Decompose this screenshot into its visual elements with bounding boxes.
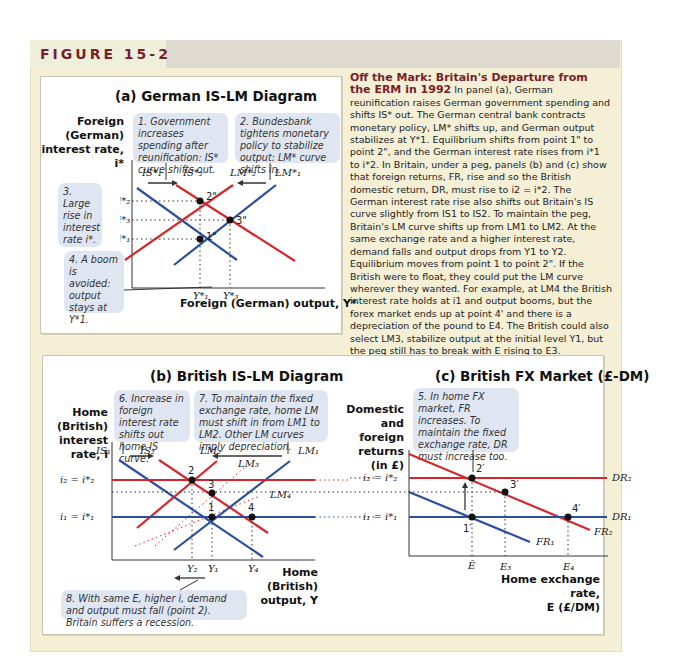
panel-c-title: (c) British FX Market (£-DM) — [435, 368, 649, 384]
svg-text:i*₁: i*₁ — [120, 233, 130, 244]
svg-text:LM₃: LM₃ — [237, 458, 259, 469]
panel-b-x-axis-label: Home (British) output, Y — [238, 566, 318, 608]
svg-text:LM₄: LM₄ — [269, 489, 291, 500]
svg-text:i₁ = i*₁: i₁ = i*₁ — [363, 511, 397, 522]
panel-b-chart: 2 3 1 4 IS₁ IS₂ LM₂ LM₃ LM₄ LM₁ i₂ = i*₂… — [60, 442, 350, 572]
svg-text:Y₁: Y₁ — [208, 563, 219, 572]
svg-text:1": 1" — [206, 231, 217, 242]
svg-text:FR₂: FR₂ — [593, 526, 612, 537]
svg-text:1: 1 — [208, 502, 214, 513]
svg-text:E₄: E₄ — [562, 561, 574, 572]
svg-text:DR₂: DR₂ — [611, 472, 632, 483]
svg-text:LM*₂: LM*₂ — [229, 167, 256, 178]
svg-text:Y*₃: Y*₃ — [223, 290, 239, 300]
svg-text:IS*₁: IS*₁ — [141, 167, 162, 178]
svg-text:2′: 2′ — [476, 463, 485, 474]
svg-text:4: 4 — [248, 502, 254, 513]
svg-text:E₃: E₃ — [499, 561, 511, 572]
note-5-fx-market: 5. In home FX market, FR increases. To m… — [413, 388, 519, 452]
svg-text:3": 3" — [236, 215, 247, 226]
svg-text:Y₄: Y₄ — [248, 563, 259, 572]
svg-text:i₂ = i*₂: i₂ = i*₂ — [60, 474, 94, 485]
svg-text:IS*₂: IS*₂ — [182, 167, 203, 178]
svg-text:i₂ = i*₂: i₂ = i*₂ — [363, 472, 397, 483]
svg-text:LM*₁: LM*₁ — [274, 167, 301, 178]
description-body: In panel (a), German reunification raise… — [350, 84, 612, 356]
svg-text:i₁ = i*₁: i₁ = i*₁ — [60, 511, 94, 522]
note-1-government-spending: 1. Government increases spending after r… — [133, 113, 228, 163]
figure-description: Off the Mark: Britain's Departure from t… — [350, 72, 612, 357]
note-8-pointer — [170, 574, 230, 594]
svg-text:LM₁: LM₁ — [297, 445, 319, 456]
panel-a-y-axis-label: Foreign (German) interest rate, i* — [36, 115, 124, 171]
note-4-pointer — [124, 284, 214, 296]
note-4-boom-avoided: 4. A boom is avoided: output stays at Y*… — [64, 251, 124, 313]
panel-a-chart: 2" 3" 1" IS*₁ IS*₂ LM*₂ LM*₁ i*₂ i*₃ i*₁… — [120, 160, 345, 300]
svg-text:IS₂: IS₂ — [139, 445, 155, 456]
svg-text:IS₁: IS₁ — [95, 445, 111, 456]
panel-a-title: (a) German IS-LM Diagram — [115, 88, 317, 104]
panel-c-chart: 2′ 3′ 1′ 4′ DR₂ DR₁ FR₁ FR₂ i₂ = i*₂ i₁ … — [350, 450, 650, 575]
svg-text:LM₂: LM₂ — [199, 445, 221, 456]
note-8-recession: 8. With same E, higher i, demand and out… — [61, 590, 247, 620]
svg-text:2: 2 — [188, 465, 194, 476]
note-7-maintain-fixed-rate: 7. To maintain the fixed exchange rate, … — [194, 390, 328, 442]
svg-text:DR₁: DR₁ — [611, 511, 632, 522]
svg-text:i*₃: i*₃ — [120, 214, 130, 225]
svg-text:4′: 4′ — [572, 503, 581, 514]
svg-text:Y₂: Y₂ — [187, 563, 198, 572]
panel-b-title: (b) British IS-LM Diagram — [150, 368, 343, 384]
figure-label: FIGURE 15-2 — [40, 46, 171, 62]
panel-c-x-axis-label: Home exchange rate, E (£/DM) — [490, 573, 600, 615]
note-2-bundesbank-tightens: 2. Bundesbank tightens monetary policy t… — [235, 113, 340, 163]
note-6-foreign-interest: 6. Increase in foreign interest rate shi… — [114, 390, 190, 442]
svg-text:i*₂: i*₂ — [120, 195, 130, 206]
svg-text:2": 2" — [206, 191, 217, 202]
svg-text:FR₁: FR₁ — [535, 536, 554, 547]
note-3-rise-in-interest: 3. Large rise in interest rate i*. — [58, 183, 102, 247]
svg-text:Ē: Ē — [467, 560, 476, 571]
svg-text:3′: 3′ — [510, 479, 519, 490]
svg-text:3: 3 — [208, 479, 214, 490]
svg-text:1′: 1′ — [463, 523, 472, 534]
